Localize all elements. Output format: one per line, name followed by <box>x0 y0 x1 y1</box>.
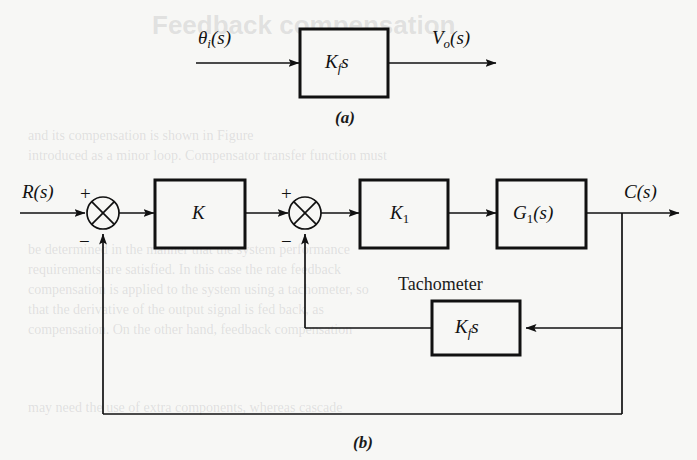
sum2-minus-sign: − <box>281 232 292 251</box>
summing-junction-1 <box>87 197 119 229</box>
sum2-plus-sign: + <box>281 184 292 203</box>
output-label-a: Vo(s) <box>432 28 470 51</box>
diagram-b-group <box>20 180 679 414</box>
block-label-k1: K1 <box>390 203 409 226</box>
block-label-k: K <box>192 203 205 222</box>
block-label-kfs-a: Kfs <box>325 52 349 75</box>
block-label-g1: G1(s) <box>513 203 553 226</box>
sum1-minus-sign: − <box>79 232 90 251</box>
caption-a: (a) <box>335 108 355 128</box>
input-label-a: θi(s) <box>198 28 231 51</box>
figure-canvas: Feedback compensation and its compensati… <box>0 0 697 460</box>
summing-junction-2 <box>289 197 321 229</box>
caption-b: (b) <box>353 433 373 453</box>
tachometer-title: Tachometer <box>398 274 483 295</box>
sum1-plus-sign: + <box>80 184 91 203</box>
output-label-b: C(s) <box>624 182 657 201</box>
block-label-tachometer: Kfs <box>455 317 479 340</box>
input-label-b: R(s) <box>22 182 54 201</box>
